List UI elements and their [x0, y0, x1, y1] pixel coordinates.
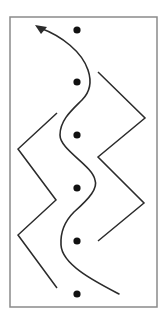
dot-1	[73, 26, 80, 33]
dot-6	[73, 290, 80, 297]
zigzag-line-left	[18, 113, 57, 288]
s-curve-path	[40, 28, 119, 294]
dot-2	[73, 78, 80, 85]
diagram-canvas	[0, 0, 164, 322]
zigzag-line-right	[98, 72, 145, 241]
dot-3	[73, 131, 80, 138]
dot-5	[73, 237, 80, 244]
dot-4	[73, 184, 80, 191]
dot-column	[73, 26, 80, 297]
